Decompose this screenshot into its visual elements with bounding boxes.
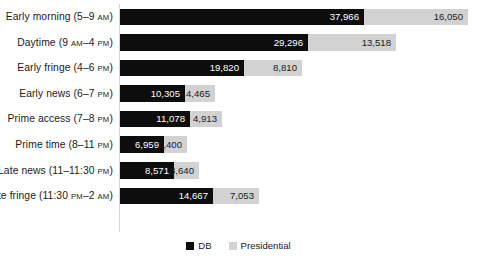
- bar-segment-presidential[interactable]: 4,913: [190, 111, 222, 128]
- bar-row: Prime time (8–11 PM)6,9593,400: [0, 132, 477, 158]
- category-label: Early news (6–7 PM): [19, 81, 113, 107]
- stacked-bar: 8,5713,640: [120, 162, 199, 179]
- bar-value-presidential: 4,465: [186, 89, 215, 99]
- bar-row: Late fringe (11:30 PM–2 AM)14,6677,053: [0, 183, 477, 209]
- bar-segment-presidential[interactable]: 4,465: [185, 85, 215, 102]
- bar-segment-presidential[interactable]: 3,400: [164, 136, 187, 153]
- stacked-bar: 6,9593,400: [120, 136, 187, 153]
- bar-value-db: 14,667: [179, 191, 213, 201]
- bar-row: Early morning (5–9 AM)37,96616,050: [0, 4, 477, 30]
- bar-value-db: 11,078: [156, 114, 190, 124]
- bar-value-presidential: 7,053: [230, 191, 259, 201]
- legend-swatch-icon: [229, 242, 237, 250]
- category-label: Prime time (8–11 PM): [15, 132, 113, 158]
- legend-label: Presidential: [241, 241, 291, 251]
- category-label: Early fringe (4–6 PM): [17, 55, 113, 81]
- bar-value-presidential: 16,050: [434, 12, 468, 22]
- bar-segment-db[interactable]: 8,571: [120, 162, 174, 179]
- bar-row: Late news (11–11:30 PM)8,5713,640: [0, 158, 477, 184]
- bar-segment-db[interactable]: 29,296: [120, 34, 308, 51]
- bar-segment-presidential[interactable]: 16,050: [364, 9, 468, 26]
- category-label: Prime access (7–8 PM): [8, 106, 113, 132]
- stacked-bar: 14,6677,053: [120, 188, 259, 205]
- bar-segment-presidential[interactable]: 3,640: [174, 162, 199, 179]
- bar-segment-presidential[interactable]: 13,518: [308, 34, 396, 51]
- plot-area: Early morning (5–9 AM)37,96616,050Daytim…: [0, 0, 477, 234]
- bar-rows: Early morning (5–9 AM)37,96616,050Daytim…: [0, 4, 477, 209]
- bar-value-presidential: 4,913: [193, 114, 222, 124]
- stacked-bar: 29,29613,518: [120, 34, 396, 51]
- bar-segment-db[interactable]: 37,966: [120, 9, 364, 26]
- category-label: Daytime (9 AM–4 PM): [17, 30, 113, 56]
- stacked-bar: 37,96616,050: [120, 9, 468, 26]
- bar-segment-presidential[interactable]: 7,053: [213, 188, 259, 205]
- bar-value-presidential: 3,400: [158, 140, 187, 150]
- bar-segment-presidential[interactable]: 8,810: [244, 60, 302, 77]
- chart-legend: DBPresidential: [0, 236, 477, 256]
- legend-item[interactable]: DB: [186, 241, 211, 251]
- stacked-bar: 10,3054,465: [120, 85, 215, 102]
- stacked-bar-chart: Early morning (5–9 AM)37,96616,050Daytim…: [0, 0, 477, 259]
- bar-row: Early fringe (4–6 PM)19,8208,810: [0, 55, 477, 81]
- bar-segment-db[interactable]: 14,667: [120, 188, 213, 205]
- stacked-bar: 11,0784,913: [120, 111, 222, 128]
- bar-value-db: 37,966: [330, 12, 364, 22]
- bar-value-presidential: 13,518: [362, 38, 396, 48]
- category-label: Late fringe (11:30 PM–2 AM): [0, 183, 113, 209]
- legend-swatch-icon: [186, 242, 194, 250]
- bar-value-db: 10,305: [151, 89, 185, 99]
- bar-value-db: 29,296: [274, 38, 308, 48]
- category-label: Late news (11–11:30 PM): [0, 158, 113, 184]
- bar-row: Daytime (9 AM–4 PM)29,29613,518: [0, 30, 477, 56]
- bar-segment-db[interactable]: 10,305: [120, 85, 185, 102]
- bar-row: Early news (6–7 PM)10,3054,465: [0, 81, 477, 107]
- stacked-bar: 19,8208,810: [120, 60, 302, 77]
- bar-value-presidential: 8,810: [273, 63, 302, 73]
- bar-row: Prime access (7–8 PM)11,0784,913: [0, 106, 477, 132]
- category-label: Early morning (5–9 AM): [6, 4, 113, 30]
- bar-segment-db[interactable]: 11,078: [120, 111, 190, 128]
- bar-value-presidential: 3,640: [170, 166, 199, 176]
- legend-item[interactable]: Presidential: [229, 241, 291, 251]
- bar-segment-db[interactable]: 19,820: [120, 60, 244, 77]
- legend-label: DB: [198, 241, 211, 251]
- bar-value-db: 19,820: [210, 63, 244, 73]
